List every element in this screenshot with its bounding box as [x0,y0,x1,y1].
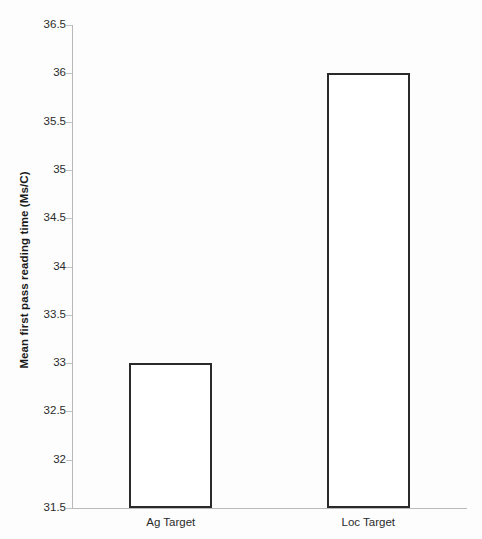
bar-chart: Mean first pass reading time (Ms/C) 36.5… [0,0,482,539]
y-axis-tick-label: 33 [0,356,66,370]
y-axis-tick-label: 32 [0,453,66,467]
y-axis-tick-label: 31.5 [0,501,66,515]
y-axis-tick-mark [66,363,72,364]
x-axis-line [72,508,467,509]
y-axis-tick-mark [66,122,72,123]
y-axis-tick-mark [66,218,72,219]
y-axis-tick-mark [66,460,72,461]
y-axis-tick-label: 32.5 [0,404,66,418]
y-axis-line [72,25,73,509]
y-axis-tick-label: 34 [0,260,66,274]
x-axis-category-label: Loc Target [288,513,448,531]
y-axis-tick-label: 35.5 [0,115,66,129]
y-axis-tick-label: 33.5 [0,308,66,322]
y-axis-tick-label: 34.5 [0,211,66,225]
y-axis-tick-mark [66,411,72,412]
y-axis-tick-mark [66,25,72,26]
x-axis-category-label: Ag Target [91,513,251,531]
y-axis-tick-label: 35 [0,163,66,177]
bar [129,363,212,508]
y-axis-tick-mark [66,508,72,509]
y-axis-tick-mark [66,315,72,316]
y-axis-tick-mark [66,170,72,171]
y-axis-tick-mark [66,267,72,268]
bar [327,73,410,508]
y-axis-tick-label: 36.5 [0,18,66,32]
y-axis-tick-mark [66,73,72,74]
y-axis-tick-label: 36 [0,66,66,80]
